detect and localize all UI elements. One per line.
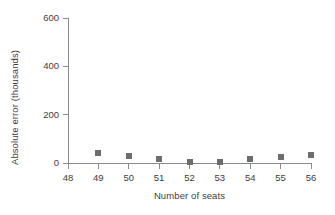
data-point <box>156 156 162 162</box>
x-axis-tick <box>311 164 312 169</box>
data-point <box>217 159 223 165</box>
x-axis-tick <box>128 164 129 169</box>
x-axis-title: Number of seats <box>68 190 311 201</box>
x-axis-tick <box>159 164 160 169</box>
x-axis-tick-label: 48 <box>53 172 83 183</box>
data-point <box>95 150 101 156</box>
x-axis-tick <box>280 164 281 169</box>
y-axis-tick-label: 0 <box>24 158 59 168</box>
data-point <box>247 156 253 162</box>
y-axis-tick-label: 400 <box>24 61 59 71</box>
y-axis-tick <box>63 114 68 115</box>
x-axis-tick-label: 54 <box>235 172 265 183</box>
y-axis-line <box>68 18 69 164</box>
plot-area: 0200400600484950515253545556 <box>0 0 335 215</box>
chart-figure: Absolute error (thousands) 0200400600484… <box>0 0 335 215</box>
y-axis-tick-label: 200 <box>24 110 59 120</box>
x-axis-tick-label: 50 <box>114 172 144 183</box>
data-point <box>278 154 284 160</box>
x-axis-tick-label: 53 <box>205 172 235 183</box>
data-point <box>187 159 193 165</box>
x-axis-tick-label: 52 <box>175 172 205 183</box>
y-axis-tick <box>63 66 68 67</box>
x-axis-tick-label: 55 <box>266 172 296 183</box>
y-axis-tick-label: 600 <box>24 13 59 23</box>
data-point <box>126 153 132 159</box>
x-axis-tick <box>250 164 251 169</box>
x-axis-tick-label: 56 <box>296 172 326 183</box>
x-axis-tick-label: 51 <box>144 172 174 183</box>
x-axis-tick <box>98 164 99 169</box>
x-axis-tick-label: 49 <box>83 172 113 183</box>
y-axis-tick <box>63 18 68 19</box>
data-point <box>308 152 314 158</box>
x-axis-tick <box>68 164 69 169</box>
